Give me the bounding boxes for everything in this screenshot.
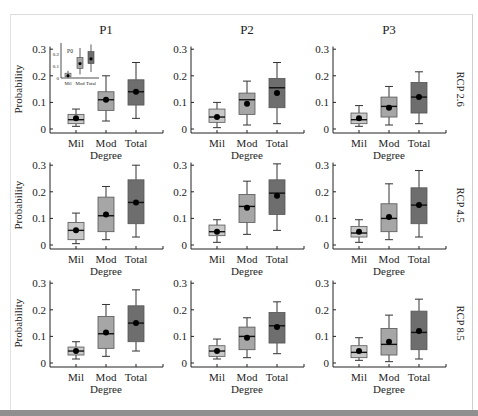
x-tick-label: Mil [209,137,225,149]
y-tick-label: 0.1 [315,96,329,108]
y-tick-label: 0.2 [32,70,46,82]
mean-marker [386,105,392,111]
x-axis-label: Degree [231,149,263,161]
y-tick-label: 0.3 [315,159,329,171]
x-axis-label: Degree [373,383,405,395]
x-tick-label: Mil [209,253,225,265]
y-tick-label: 0.1 [173,330,187,342]
mean-marker [103,211,109,217]
panel-RCP26-p1: P100.10.20.3ProbabilityMilModTotalDegree… [12,22,163,161]
inset-y-tick-label: 0.2 [53,52,60,57]
mean-marker [356,348,362,354]
y-tick-label: 0.3 [173,159,187,171]
x-tick-label: Total [266,137,288,149]
column-title: P3 [382,22,396,37]
column-title: P1 [99,22,113,37]
inset-panel-p0: P000.10.2MilModTotal [53,43,100,86]
x-axis-label: Degree [90,383,122,395]
mean-marker [73,348,79,354]
mean-marker [356,229,362,235]
y-tick-label: 0 [182,239,188,251]
y-tick-label: 0.2 [173,70,187,82]
panel-RCP26-p3: P3RCP 2.600.10.20.3MilModTotalDegree [315,22,466,161]
x-tick-label: Mod [96,137,117,149]
x-tick-label: Mil [209,371,225,383]
x-tick-label: Mod [237,137,258,149]
mean-marker [416,94,422,100]
y-tick-label: 0.2 [32,304,46,316]
y-tick-label: 0.3 [315,43,329,55]
inset-x-tick-label: Mil [65,81,73,86]
y-tick-label: 0.3 [173,277,187,289]
mean-marker [244,101,250,107]
y-tick-label: 0 [324,123,330,135]
figure-frame: P100.10.20.3ProbabilityMilModTotalDegree… [0,0,478,416]
y-axis-label: Probability [12,180,24,229]
panel-RCP45-p1: 00.10.20.3ProbabilityMilModTotalDegree [12,159,163,277]
x-tick-label: Mod [237,253,258,265]
mean-marker [274,193,280,199]
x-tick-label: Mil [68,371,84,383]
y-tick-label: 0.2 [173,304,187,316]
y-tick-label: 0.1 [173,212,187,224]
x-tick-label: Total [408,371,430,383]
column-title: P2 [240,22,254,37]
inset-y-tick-label: 0.1 [53,64,60,69]
y-tick-label: 0.3 [32,43,46,55]
inset-mean-marker [66,74,69,77]
x-tick-label: Total [125,137,147,149]
panel-RCP26-p2: P200.10.20.3MilModTotalDegree [173,22,304,161]
panel-RCP45-p2: 00.10.20.3MilModTotalDegree [173,159,304,277]
mean-marker [214,114,220,120]
x-tick-label: Mod [379,137,400,149]
row-label: RCP 8.5 [455,305,466,340]
x-axis-label: Degree [90,265,122,277]
x-tick-label: Mil [68,253,84,265]
y-tick-label: 0.2 [32,186,46,198]
x-axis-label: Degree [373,149,405,161]
mean-marker [73,115,79,121]
inset-title: P0 [67,48,73,54]
x-tick-label: Total [266,371,288,383]
mean-marker [133,199,139,205]
y-tick-label: 0 [41,123,47,135]
inset-mean-marker [89,57,92,60]
y-tick-label: 0.1 [173,96,187,108]
y-tick-label: 0 [41,357,47,369]
panel-RCP85-p1: 00.10.20.3ProbabilityMilModTotalDegree [12,277,163,395]
x-tick-label: Mil [351,137,367,149]
x-tick-label: Mod [96,371,117,383]
x-tick-label: Total [266,253,288,265]
mean-marker [386,339,392,345]
mean-marker [214,348,220,354]
mean-marker [244,205,250,211]
panel-RCP45-p3: RCP 4.500.10.20.3MilModTotalDegree [315,159,466,277]
inset-y-tick-label: 0 [57,76,60,81]
y-tick-label: 0 [324,239,330,251]
y-tick-label: 0.3 [173,43,187,55]
y-tick-label: 0.1 [32,212,46,224]
inset-x-tick-label: Mod [75,81,85,86]
x-tick-label: Mil [351,371,367,383]
x-axis-label: Degree [90,149,122,161]
y-tick-label: 0.1 [32,96,46,108]
y-tick-label: 0.2 [315,70,329,82]
x-tick-label: Total [125,253,147,265]
x-axis-label: Degree [373,265,405,277]
y-tick-label: 0.2 [315,186,329,198]
y-axis-label: Probability [12,298,24,347]
inset-mean-marker [78,62,81,65]
y-tick-label: 0.3 [315,277,329,289]
x-axis-label: Degree [231,265,263,277]
row-label: RCP 4.5 [455,187,466,222]
panel-RCP85-p2: 00.10.20.3MilModTotalDegree [173,277,304,395]
mean-marker [386,214,392,220]
y-tick-label: 0 [182,357,188,369]
mean-marker [416,202,422,208]
mean-marker [73,227,79,233]
y-tick-label: 0.1 [315,330,329,342]
mean-marker [103,97,109,103]
mean-marker [103,329,109,335]
mean-marker [133,320,139,326]
boxplot-grid-chart: P100.10.20.3ProbabilityMilModTotalDegree… [0,0,478,416]
